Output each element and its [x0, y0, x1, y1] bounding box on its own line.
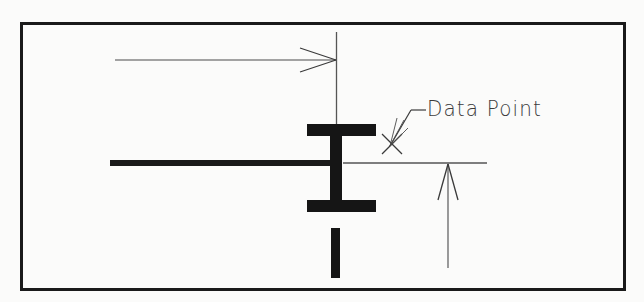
- drawing-canvas: Data Point: [0, 0, 644, 302]
- vertical-dimension-arrow: [438, 164, 458, 268]
- lower-centerline-stub: [331, 228, 340, 278]
- i-beam-bottom-flange: [307, 200, 376, 212]
- technical-drawing: [0, 0, 644, 302]
- horizontal-dimension-arrow: [115, 48, 336, 72]
- leader-line: [390, 110, 426, 146]
- data-point-label: Data Point: [427, 99, 542, 120]
- i-beam-web: [330, 124, 342, 212]
- drawing-frame: [22, 24, 625, 290]
- i-beam-section: [307, 124, 376, 212]
